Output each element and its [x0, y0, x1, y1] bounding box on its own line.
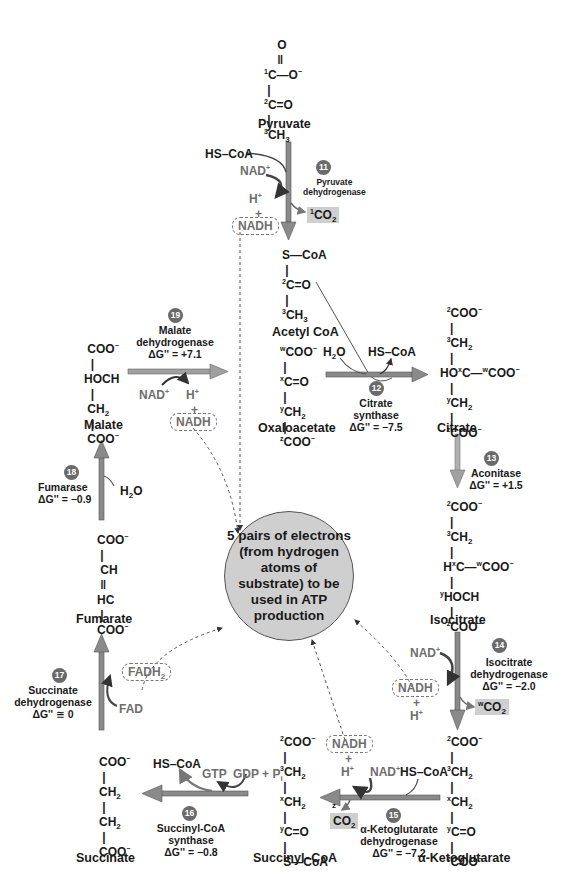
nadh-box-15: NADH [326, 735, 373, 753]
succinyl-coa-structure: 2COO− | 3CH2 | xCH2 | yC=O | S—CoA [280, 735, 328, 870]
nad-input-19: NAD+ [139, 388, 169, 402]
isocitrate-label: Isocitrate [430, 613, 486, 627]
step-badge-15: 15 [386, 808, 401, 823]
nad-input: NAD+ [240, 164, 270, 178]
acetyl-coa-label: Acetyl CoA [272, 325, 339, 339]
akg-structure: 2COO− | 3CH2 | xCH2 | yC=O | zCOO− [447, 735, 482, 870]
succinate-structure: COO− | CH2 | CH2 | COO− [99, 755, 130, 860]
figure-caption-faded [180, 876, 440, 886]
arrow-isocitrate-to-akg [450, 632, 465, 730]
step-badge-13: 13 [484, 451, 499, 466]
enzyme-malate-dehydrogenase: MalatedehydrogenaseΔG'' = +7.1 [130, 324, 220, 360]
step-badge-17: 17 [52, 668, 67, 683]
h-output-15: H+ [341, 765, 354, 779]
succinyl-coa-label: Succinyl–CoA [253, 851, 337, 865]
citrate-label: Citrate [437, 421, 477, 435]
nadh-box: NADH [232, 217, 279, 235]
malate-label: Malate [84, 418, 123, 432]
h2o-input: H2O [323, 345, 345, 359]
hscoa-input: HS–CoA [205, 147, 253, 161]
nad-input-15: NAD+ [370, 765, 400, 779]
hscoa-output-16: HS–CoA [153, 757, 201, 771]
h2o-input-18: H2O [120, 484, 142, 498]
plus-sign-14: + [413, 696, 420, 710]
succinate-label: Succinate [76, 851, 135, 865]
step-badge-11: 11 [316, 160, 331, 175]
enzyme-succinyl-coa-synthase: Succinyl-CoAsynthaseΔG'' = −0.8 [148, 822, 234, 858]
h-output: H+ [249, 192, 262, 206]
h-output-19: H+ [186, 388, 199, 402]
nadh-box-14: NADH [392, 679, 439, 697]
enzyme-citrate-synthase: CitratesynthaseΔG'' = −7.5 [340, 397, 412, 433]
enzyme-akg-dehydrogenase: α-KetoglutaratedehydrogenaseΔG'' = −7.2 [356, 823, 442, 859]
gdp-pi-input: GDP + Pi [233, 767, 283, 781]
step-badge-12: 12 [369, 381, 384, 396]
enzyme-fumarase: FumaraseΔG'' = −0.9 [38, 481, 106, 505]
gtp-output: GTP [202, 767, 227, 781]
fadh2-box: FADH2 [122, 663, 171, 681]
arrow-citrate-to-isocitrate [450, 434, 465, 488]
co2-box: 1CO2 [307, 207, 339, 223]
pyruvate-label: Pyruvate [258, 117, 311, 131]
step-badge-16: 16 [182, 806, 197, 821]
arrow-akg-to-succinylcoa [320, 789, 440, 806]
enzyme-isocitrate-dehydrogenase: IsocitratedehydrogenaseΔG'' = −2.0 [466, 656, 552, 692]
co2-box-15: CO2 [330, 813, 358, 829]
co2-box-14: wCO2 [475, 699, 509, 715]
nad-input-14: NAD+ [410, 646, 440, 660]
step-badge-18: 18 [64, 465, 79, 480]
co2-label-z: z [332, 799, 336, 813]
arrow-pyruvate-to-acetylcoa [281, 142, 296, 240]
step-badge-14: 14 [492, 638, 507, 653]
fad-input: FAD [119, 702, 143, 716]
enzyme-pyruvate-dehydrogenase: Pyruvatedehydrogenase [303, 177, 366, 197]
enzyme-succinate-dehydrogenase: SuccinatedehydrogenaseΔG'' ≅ 0 [8, 684, 98, 720]
step-badge-19: 19 [168, 308, 183, 323]
fumarate-label: Fumarate [76, 612, 132, 626]
enzyme-aconitase: AconitaseΔG'' = +1.5 [464, 467, 528, 491]
h-output-14: H+ [410, 709, 423, 723]
arrow-fumarate-to-malate [94, 440, 109, 520]
hscoa-output: HS–CoA [368, 345, 416, 359]
plus-sign-15: + [345, 752, 352, 766]
nadh-box-19: NADH [170, 413, 217, 431]
electron-pairs-node: 5 pairs of electrons (from hydrogen atom… [224, 511, 354, 641]
oxaloacetate-label: Oxaloacetate [258, 421, 336, 435]
hscoa-input-15: HS–CoA [400, 765, 448, 779]
acetyl-coa-structure: S—CoA | 2C=O | 3CH3 [282, 248, 327, 323]
